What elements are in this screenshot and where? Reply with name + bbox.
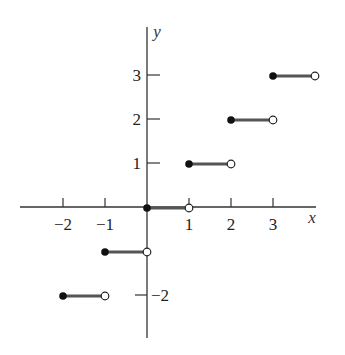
open-endpoint-dot (311, 72, 319, 80)
x-tick-label: −2 (54, 215, 72, 234)
closed-endpoint-dot (269, 72, 277, 80)
labels: −2−1123−2123xy (54, 22, 316, 305)
y-axis-label: y (151, 22, 161, 41)
y-tick-label: −2 (151, 286, 169, 305)
x-tick-label: 2 (227, 215, 236, 234)
x-tick-label: −1 (96, 215, 114, 234)
open-endpoint-dot (269, 116, 277, 124)
x-axis-label: x (307, 208, 316, 227)
open-endpoint-dot (101, 292, 109, 300)
closed-endpoint-dot (227, 116, 235, 124)
step-segments (59, 72, 319, 300)
step-function-plot: −2−1123−2123xy (0, 0, 345, 355)
closed-endpoint-dot (185, 160, 193, 168)
ticks (63, 75, 273, 295)
y-tick-label: 1 (133, 154, 142, 173)
closed-endpoint-dot (101, 248, 109, 256)
open-endpoint-dot (185, 204, 193, 212)
open-endpoint-dot (227, 160, 235, 168)
x-tick-label: 3 (269, 215, 278, 234)
y-tick-label: 3 (133, 66, 142, 85)
closed-endpoint-dot (59, 292, 67, 300)
open-endpoint-dot (143, 248, 151, 256)
x-tick-label: 1 (185, 215, 194, 234)
closed-endpoint-dot (143, 204, 151, 212)
y-tick-label: 2 (133, 110, 142, 129)
